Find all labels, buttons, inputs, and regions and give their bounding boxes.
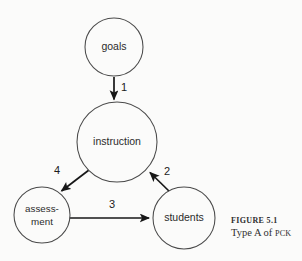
edge-3-label: 3 (109, 198, 115, 210)
edge-assessment-to-students: 3 (69, 198, 149, 218)
assessment-label-line2: ment (31, 216, 53, 227)
edge-2-label: 2 (164, 165, 170, 177)
figure-title: Type A of PCK (231, 227, 301, 240)
figure-caption: FIGURE 5.1 Type A of PCK (231, 216, 301, 240)
assessment-label-line1: assess- (25, 203, 59, 214)
edge-1-label: 1 (121, 81, 127, 93)
edge-students-to-instruction: 2 (150, 165, 172, 194)
figure-number: FIGURE 5.1 (231, 216, 301, 226)
edge-4-line (62, 170, 90, 191)
instruction-label: instruction (93, 135, 141, 147)
edge-instruction-to-assessment: 4 (54, 164, 89, 191)
goals-label: goals (101, 40, 126, 52)
figure-container: 1 2 3 4 goals instruction assess- ment (0, 0, 302, 261)
node-assessment: assess- ment (14, 187, 70, 243)
node-instruction: instruction (77, 102, 157, 182)
figure-title-prefix: Type A of (231, 227, 275, 238)
node-students: students (153, 187, 215, 249)
edge-4-label: 4 (54, 164, 60, 176)
figure-title-acronym: PCK (275, 229, 292, 238)
edge-goals-to-instruction: 1 (114, 77, 127, 100)
students-label: students (164, 211, 204, 223)
node-goals: goals (85, 18, 143, 76)
